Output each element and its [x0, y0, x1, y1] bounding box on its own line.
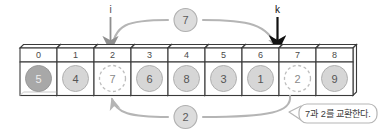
array-index-label: 6 [258, 50, 263, 60]
array-index-label: 4 [184, 50, 189, 60]
array-value-label: 9 [331, 73, 337, 85]
array-value-label: 6 [146, 73, 152, 85]
array-index-label: 0 [36, 50, 41, 60]
callout-text: 7과 2를 교환한다. [305, 108, 371, 119]
array-index-label: 8 [332, 50, 337, 60]
array-index-label: 3 [147, 50, 152, 60]
array-cell[interactable]: 4 8 [168, 45, 209, 96]
callout-group[interactable]: 7과 2를 교환한다. [289, 104, 377, 123]
array-value-label: 7 [109, 73, 115, 85]
array-cell[interactable]: 7 2 [279, 45, 320, 96]
array-cell[interactable]: 0 5 [20, 45, 61, 96]
array-cell[interactable]: 3 6 [131, 45, 172, 96]
array-cell[interactable]: 5 3 [205, 45, 246, 96]
bottom-arc-path-right [203, 96, 290, 117]
array-cell[interactable]: 6 1 [242, 45, 283, 96]
array-index-label: 7 [295, 50, 300, 60]
array-value-label: 4 [72, 73, 78, 85]
array-cell[interactable]: 1 4 [57, 45, 98, 96]
top-badge-label: 7 [182, 14, 188, 26]
array-index-label: 2 [110, 50, 115, 60]
diagram-canvas: 7 i k 0 5 [0, 0, 380, 137]
pointer-k-group: k [275, 4, 281, 44]
pointer-k-label: k [275, 4, 281, 15]
array-value-label: 2 [294, 73, 300, 85]
pointer-i-group: i [109, 4, 111, 44]
bottom-arc-path-left [112, 99, 168, 117]
array-cell[interactable]: 2 7 [94, 45, 135, 96]
quicksort-swap-diagram: 7 i k 0 5 [0, 0, 380, 137]
top-arc-path-right [203, 20, 277, 48]
bottom-badge-label: 2 [182, 111, 188, 123]
bottom-arc-group: 2 [112, 96, 290, 129]
array-value-label: 1 [257, 73, 263, 85]
array-value-label: 5 [35, 73, 41, 85]
array-row: 0 5 1 4 2 7 [20, 45, 357, 96]
array-cell[interactable]: 8 9 [316, 45, 357, 96]
array-index-label: 5 [221, 50, 226, 60]
pointer-i-label: i [109, 4, 111, 15]
array-value-label: 3 [220, 73, 226, 85]
array-value-label: 8 [183, 73, 189, 85]
array-index-label: 1 [73, 50, 78, 60]
